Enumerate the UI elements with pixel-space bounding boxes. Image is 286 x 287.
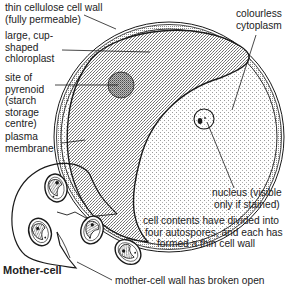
label-pyrenoid-line3: (starch: [5, 95, 44, 107]
label-cytoplasm-line1: colourless: [236, 8, 282, 20]
label-autospores-line2: four autospores, and each has: [143, 227, 283, 239]
label-nucleus: nucleus (visible only if stained): [212, 187, 282, 210]
label-mother-cell: Mother-cell: [3, 265, 62, 277]
label-chloroplast-line3: chloroplast: [5, 53, 54, 65]
label-pyrenoid-line2: pyrenoid: [5, 84, 44, 96]
label-plasma-membrane-line1: plasma: [5, 131, 54, 143]
chromatin-dot: [204, 117, 206, 119]
label-pyrenoid-line1: site of: [5, 72, 44, 84]
autospore-2: [25, 215, 55, 249]
label-pyrenoid-line5: centre): [5, 118, 44, 130]
label-plasma-membrane-line2: membrane: [5, 143, 54, 155]
label-autospores-line3: formed a thin cell wall: [143, 238, 283, 250]
label-pyrenoid: site of pyrenoid (starch storage centre): [5, 72, 44, 130]
label-cell-wall-line2: (fully permeable): [5, 14, 102, 26]
label-cytoplasm-line2: cytoplasm: [236, 20, 282, 32]
label-autospores: cell contents have divided into four aut…: [143, 215, 283, 250]
nucleus: [194, 109, 214, 129]
label-cell-wall: thin cellulose cell wall (fully permeabl…: [5, 2, 102, 25]
label-chloroplast: large, cup- shaped chloroplast: [5, 30, 54, 65]
label-plasma-membrane: plasma membrane: [5, 131, 54, 154]
label-chloroplast-line2: shaped: [5, 42, 54, 54]
label-nucleus-line2: only if stained): [212, 199, 282, 211]
mother-wall-rupture-lower: [57, 232, 70, 258]
label-pyrenoid-line4: storage: [5, 107, 44, 119]
leader-mother-wall: [77, 262, 112, 280]
label-cell-wall-line1: thin cellulose cell wall: [5, 2, 102, 14]
label-autospores-line1: cell contents have divided into: [143, 215, 283, 227]
label-mother-wall: mother-cell wall has broken open: [115, 275, 265, 287]
nucleolus: [198, 118, 203, 124]
label-chloroplast-line1: large, cup-: [5, 30, 54, 42]
label-nucleus-line1: nucleus (visible: [212, 187, 282, 199]
label-cytoplasm: colourless cytoplasm: [236, 8, 282, 31]
